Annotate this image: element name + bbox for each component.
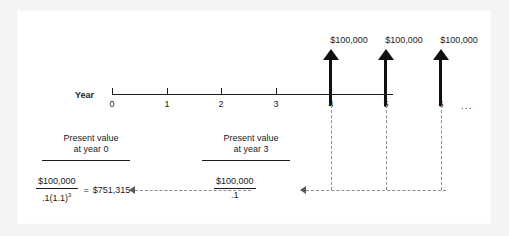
left-caption-line-1: Present value — [36, 133, 146, 144]
left-formula-caption: Present value at year 0 — [36, 133, 146, 155]
right-caption-line-1: Present value — [196, 133, 306, 144]
axis-tick-0 — [112, 88, 113, 95]
axis-continuation-ellipsis: ... — [461, 101, 473, 112]
left-denominator-base: .1(1.1) — [42, 193, 68, 203]
right-numerator: $100,000 — [214, 176, 256, 188]
left-equals-sign: = — [84, 185, 89, 196]
figure-root: $100,000 $100,000 $100,000 Year 0 1 2 3 … — [0, 0, 509, 236]
right-formula-expression: $100,000 .1 — [214, 176, 256, 201]
left-result-value: $751,315 — [93, 185, 131, 196]
cash-flow-label-year-5: $100,000 — [373, 35, 435, 46]
axis-tick-label-0: 0 — [97, 99, 127, 110]
axis-tick-label-2: 2 — [206, 99, 236, 110]
dashed-connector-year-5 — [386, 105, 387, 190]
left-caption-line-2: at year 0 — [36, 144, 146, 155]
left-numerator: $100,000 — [36, 176, 78, 188]
left-formula-expression: $100,000 .1(1.1)3 = $751,315 — [36, 176, 130, 204]
cash-flow-arrow-year-6 — [432, 49, 450, 106]
left-denominator: .1(1.1)3 — [36, 189, 78, 204]
dashed-line-to-year-3-value — [306, 190, 446, 191]
dashed-arrow-head-right-icon — [300, 186, 306, 194]
left-fraction: $100,000 .1(1.1)3 — [36, 176, 78, 204]
cash-flow-label-year-4: $100,000 — [318, 35, 380, 46]
dashed-connector-year-6 — [441, 105, 442, 190]
cash-flow-label-year-6: $100,000 — [428, 35, 490, 46]
right-fraction: $100,000 .1 — [214, 176, 256, 201]
axis-tick-1 — [167, 88, 168, 95]
axis-tick-label-3: 3 — [261, 99, 291, 110]
timeline-axis — [112, 94, 393, 95]
axis-tick-label-1: 1 — [152, 99, 182, 110]
right-formula-caption: Present value at year 3 — [196, 133, 306, 155]
axis-label-year: Year — [75, 90, 94, 101]
right-caption-line-2: at year 3 — [196, 144, 306, 155]
left-caption-underline — [42, 160, 130, 161]
cash-flow-arrow-year-4 — [322, 49, 340, 106]
left-denominator-exponent: 3 — [68, 192, 71, 198]
axis-tick-3 — [276, 88, 277, 95]
right-caption-underline — [202, 160, 290, 161]
dashed-connector-year-4 — [331, 105, 332, 190]
cash-flow-arrow-year-5 — [377, 49, 395, 106]
right-denominator: .1 — [214, 189, 256, 201]
figure-panel: $100,000 $100,000 $100,000 Year 0 1 2 3 … — [18, 11, 490, 223]
axis-tick-2 — [221, 88, 222, 95]
